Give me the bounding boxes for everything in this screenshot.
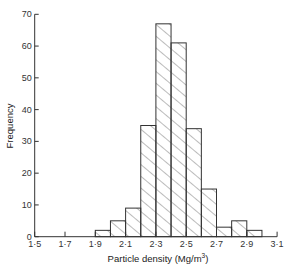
histogram-bar [156,24,171,237]
x-tick-label: 2·1 [119,239,132,249]
y-tick-label: 40 [22,105,32,115]
y-tick-label: 30 [22,136,32,146]
histogram-bar [247,230,262,236]
x-tick-label: 2·9 [240,239,253,249]
x-tick-label: 1·5 [28,239,41,249]
y-tick-label: 60 [22,41,32,51]
histogram-bar [217,227,232,237]
x-tick-label: 2·3 [149,239,162,249]
y-tick-label: 10 [22,200,32,210]
y-tick-label: 70 [22,9,32,19]
histogram-bar [186,129,201,237]
histogram-bar [201,189,216,237]
histogram-chart: 010203040506070 1·51·71·92·12·32·52·72·9… [0,0,299,270]
y-axis: 010203040506070 [22,9,39,241]
x-tick-label: 3·1 [271,239,284,249]
y-axis-label: Frequency [4,103,15,148]
x-tick-label: 1·7 [58,239,71,249]
x-axis-label: Particle density (Mg/m3) [108,252,209,264]
histogram-bar [110,221,125,237]
x-tick-label: 2·7 [210,239,223,249]
x-tick-label: 1·9 [89,239,102,249]
y-tick-label: 20 [22,168,32,178]
y-tick-label: 50 [22,73,32,83]
histogram-bar [126,208,141,237]
histogram-bar [141,126,156,237]
histogram-bar [171,43,186,237]
histogram-bar [95,230,110,236]
histogram-bar [232,221,247,237]
x-tick-label: 2·5 [180,239,193,249]
histogram-bars [95,24,262,237]
